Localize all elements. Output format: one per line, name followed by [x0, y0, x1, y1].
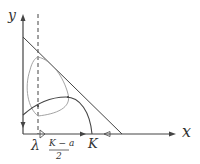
down-arrow-icon	[21, 122, 26, 128]
equilibrium-point	[67, 96, 69, 98]
dome-curve	[23, 97, 92, 134]
k-label: K	[88, 137, 98, 150]
x-axis-arrow-icon	[169, 132, 176, 137]
flow-arrow-icon	[80, 132, 86, 137]
y-axis-arrow-icon	[21, 14, 26, 21]
y-axis-label: y	[8, 8, 16, 22]
phase-diagram	[0, 0, 200, 164]
lambda-label: λ	[31, 138, 40, 152]
fraction-denominator: 2	[56, 152, 62, 161]
equilibrium-point	[37, 105, 39, 107]
fraction-numerator: K − a	[49, 139, 74, 148]
x-axis-label: x	[182, 124, 191, 140]
